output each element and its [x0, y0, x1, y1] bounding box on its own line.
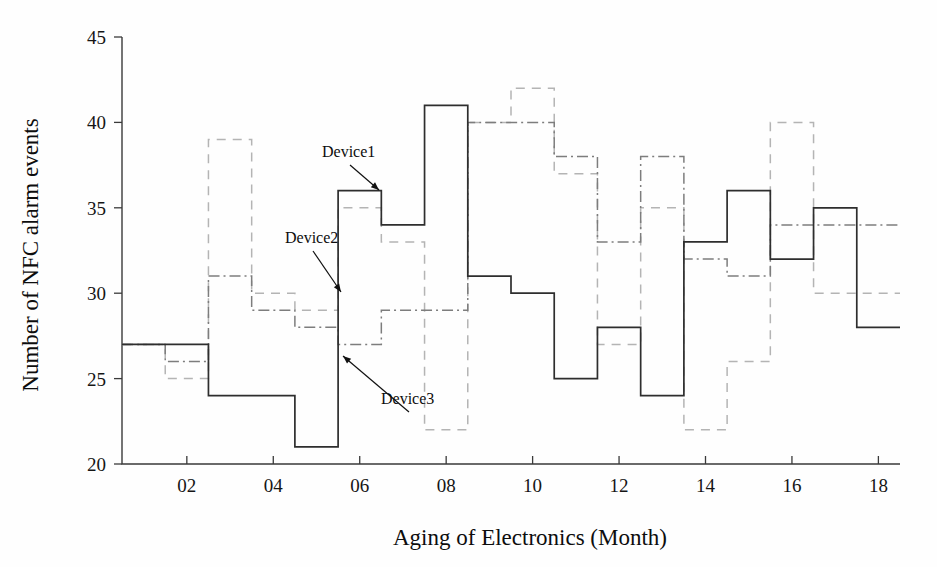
- x-tick-label: 02: [177, 475, 196, 496]
- y-axis-title: Number of NFC alarm events: [18, 118, 43, 391]
- annotation-label-device2: Device2: [285, 229, 338, 246]
- x-tick-label: 14: [696, 475, 716, 496]
- y-tick-label: 45: [87, 27, 106, 48]
- x-tick-label: 06: [350, 475, 369, 496]
- y-tick-label: 20: [87, 454, 106, 475]
- annotation-label-device3: Device3: [381, 390, 434, 407]
- x-tick-label: 18: [869, 475, 888, 496]
- nfc-alarm-step-chart: 202530354045 020406081012141618 Number o…: [0, 0, 937, 567]
- annotation-label-device1: Device1: [322, 143, 375, 160]
- y-tick-label: 35: [87, 198, 106, 219]
- x-axis-title: Aging of Electronics (Month): [393, 525, 667, 550]
- y-tick-label: 40: [87, 112, 106, 133]
- x-tick-label: 04: [264, 475, 284, 496]
- x-tick-label: 16: [782, 475, 801, 496]
- x-tick-label: 12: [610, 475, 629, 496]
- x-tick-label: 10: [523, 475, 542, 496]
- y-tick-label: 30: [87, 283, 106, 304]
- y-tick-label: 25: [87, 369, 106, 390]
- x-tick-label: 08: [437, 475, 456, 496]
- chart-figure: 202530354045 020406081012141618 Number o…: [0, 0, 937, 567]
